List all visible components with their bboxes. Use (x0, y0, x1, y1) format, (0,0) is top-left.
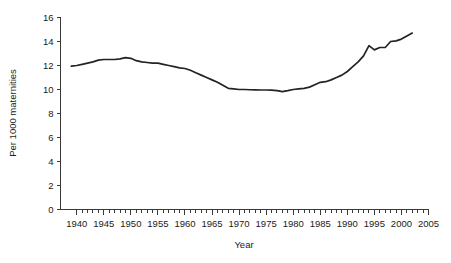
chart-container: 0246810121416 19401945195019551960196519… (0, 0, 451, 263)
y-axis-tick-label: 10 (43, 84, 54, 95)
y-axis-tick-label: 12 (43, 60, 54, 71)
y-axis-tick-label: 2 (48, 180, 53, 191)
y-axis-tick-label: 4 (48, 156, 53, 167)
x-axis-tick-label: 1965 (201, 218, 222, 229)
x-axis-tick-label: 1970 (229, 218, 250, 229)
x-axis-tick-label: 2000 (391, 218, 412, 229)
x-axis-tick-label: 1995 (364, 218, 385, 229)
y-axis-tick-label: 16 (43, 12, 54, 23)
x-axis-tick-label: 1985 (310, 218, 331, 229)
x-axis-tick-label: 1955 (147, 218, 168, 229)
data-series (71, 33, 412, 92)
y-axis-tick-label: 0 (48, 204, 53, 215)
x-axis-tick-label: 1980 (283, 218, 304, 229)
y-axis-tick-label: 14 (43, 36, 54, 47)
line-chart: 0246810121416 19401945195019551960196519… (0, 0, 451, 263)
y-axis-tick-label: 8 (48, 108, 53, 119)
x-axis: 1940194519501955196019651970197519801985… (61, 210, 440, 229)
x-axis-tick-label: 2005 (418, 218, 439, 229)
x-axis-tick-label: 1950 (120, 218, 141, 229)
x-axis-tick-label: 1940 (66, 218, 87, 229)
x-axis-tick-label: 1945 (93, 218, 114, 229)
x-axis-title: Year (234, 239, 253, 250)
x-axis-tick-label: 1975 (256, 218, 277, 229)
y-axis-title: Per 1000 maternities (7, 69, 18, 157)
x-axis-tick-label: 1990 (337, 218, 358, 229)
x-axis-tick-label: 1960 (174, 218, 195, 229)
y-axis: 0246810121416 (43, 12, 61, 215)
series-line (71, 33, 412, 92)
y-axis-tick-label: 6 (48, 132, 53, 143)
